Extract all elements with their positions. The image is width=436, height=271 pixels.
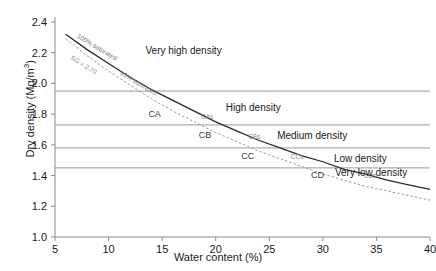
point-label-cas: CAs <box>201 113 214 120</box>
x-axis-title: Water content (%) <box>0 251 436 263</box>
curve-annotation: 95% saturated <box>119 69 159 97</box>
chart-svg: 510152025303540 1.01.21.41.61.82.02.22.4… <box>0 0 436 271</box>
y-axis-title-main: Dry density (Mg/m <box>24 68 36 157</box>
y-tick-label: 1.0 <box>32 231 47 243</box>
chart-figure: 510152025303540 1.01.21.41.61.82.02.22.4… <box>0 0 436 271</box>
region-label: Medium density <box>277 130 347 141</box>
y-axis-title-exponent: 3 <box>22 64 31 68</box>
point-label-ccs: CCs <box>291 153 304 160</box>
point-label-cc: CC <box>241 151 254 161</box>
y-axis-title: Dry density (Mg/m3) <box>22 39 36 179</box>
point-label-ca: CA <box>148 109 161 119</box>
point-label-cds: CDs <box>364 172 377 179</box>
region-label: High density <box>226 102 281 113</box>
plot-area: 510152025303540 1.01.21.41.61.82.02.22.4… <box>0 0 436 271</box>
curve-annotation: 100% saturated <box>76 32 119 62</box>
region-labels: Very high densityHigh densityMedium dens… <box>145 45 407 177</box>
region-label: Very high density <box>145 45 221 56</box>
curve-annotations: 100% saturatedSG = 2.7095% saturated <box>69 32 158 97</box>
point-label-cbs: CBs <box>248 133 261 140</box>
curve-annotation: SG = 2.70 <box>69 54 98 76</box>
point-label-cd: CD <box>311 170 324 180</box>
y-tick-label: 1.2 <box>32 200 47 212</box>
region-label: Low density <box>334 153 387 164</box>
y-tick-label: 2.4 <box>32 16 47 28</box>
point-label-cb: CB <box>199 130 212 140</box>
y-axis-title-end: ) <box>24 60 36 64</box>
